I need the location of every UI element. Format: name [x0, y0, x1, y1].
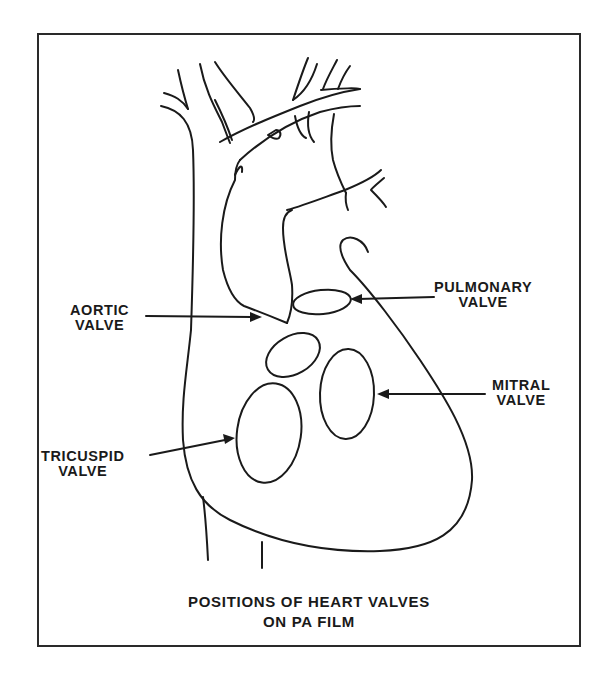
- superior-vena-cava-outline: [161, 106, 472, 551]
- label-line1: AORTIC: [70, 303, 129, 318]
- caption-line2: ON PA FILM: [37, 612, 581, 632]
- label-line1: TRICUSPID: [41, 449, 125, 464]
- aortic-valve-outline: [258, 324, 327, 386]
- subclavian-artery-2: [293, 64, 317, 100]
- ascending-aorta-outline: [221, 160, 287, 323]
- pulmonary-arrow: [350, 294, 434, 304]
- label-line1: PULMONARY: [434, 280, 532, 295]
- pulmonary-valve-label: PULMONARY VALVE: [434, 280, 532, 310]
- pulmonary-artery-left-edge: [346, 193, 348, 210]
- brachiocephalic-artery-inner: [215, 100, 232, 140]
- mitral-valve-label: MITRAL VALVE: [492, 378, 550, 408]
- pulmonary-valve-outline: [292, 287, 352, 317]
- label-line2: VALVE: [434, 295, 532, 310]
- pulmonary-artery-top: [287, 170, 381, 210]
- aortic-arrow: [146, 312, 262, 322]
- inferior-vena-cava-left: [203, 497, 208, 560]
- left-upper-branch-2: [338, 66, 350, 89]
- tricuspid-arrow: [150, 434, 235, 455]
- label-line1: MITRAL: [492, 378, 550, 393]
- heart-diagram: [0, 0, 605, 684]
- left-upper-branch: [323, 60, 337, 89]
- arch-vessel-stub: [308, 112, 314, 142]
- mitral-valve-outline: [318, 348, 375, 440]
- figure-caption: POSITIONS OF HEART VALVES ON PA FILM: [37, 592, 581, 632]
- descending-aorta: [331, 114, 346, 193]
- aortic-root-right: [283, 210, 292, 323]
- aortic-valve-label: AORTIC VALVE: [70, 303, 129, 333]
- mitral-arrow: [377, 389, 485, 399]
- tricuspid-valve-label: TRICUSPID VALVE: [41, 449, 125, 479]
- tricuspid-valve-outline: [230, 379, 307, 487]
- label-line2: VALVE: [41, 464, 125, 479]
- left-pulmonary-branch: [371, 178, 386, 207]
- caption-line1: POSITIONS OF HEART VALVES: [37, 592, 581, 612]
- label-line2: VALVE: [492, 393, 550, 408]
- label-line2: VALVE: [70, 318, 129, 333]
